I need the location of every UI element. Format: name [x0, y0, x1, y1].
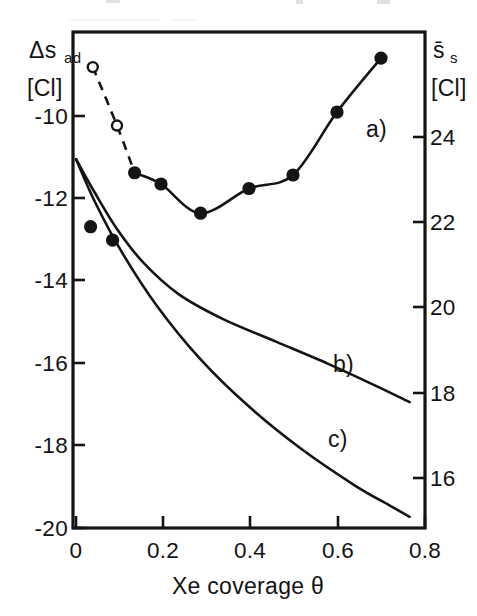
data-point-filled: [286, 168, 299, 181]
right-axis-title: s̄ s: [433, 37, 458, 66]
right-tick-label-2: 20: [430, 295, 456, 320]
left-tick-label-3: -16: [35, 351, 68, 376]
x-tick-label-3: 0.6: [322, 538, 354, 563]
data-point-filled: [330, 105, 343, 118]
right-axis-title-main: s̄: [433, 37, 445, 63]
data-point-filled: [242, 182, 255, 195]
scan-artifacts: [70, 0, 390, 21]
x-axis-title: Xe coverage θ: [172, 573, 324, 599]
bottom-axis-ticks: [76, 516, 425, 528]
data-point-filled: [154, 177, 167, 190]
series-a-dashed-extrapolation: [88, 62, 135, 173]
right-tick-label-1: 22: [430, 210, 456, 235]
series-a-: [128, 51, 388, 219]
series-b-: [76, 159, 410, 402]
data-point-open: [112, 121, 122, 131]
x-tick-label-1: 0.2: [147, 538, 179, 563]
right-tick-label-3: 18: [430, 381, 456, 406]
data-point-filled: [84, 220, 97, 233]
chart-svg: Δs ad [Cl] -10 -12 -14 -16 -18 -20 s̄ s …: [0, 0, 477, 616]
right-tick-label-4: 16: [430, 466, 456, 491]
left-tick-label-0: -10: [35, 104, 68, 129]
series-c-: [76, 159, 410, 517]
left-axis-unit: [Cl]: [27, 75, 63, 101]
left-tick-label-4: -18: [35, 433, 68, 458]
curve-path: [76, 159, 410, 402]
data-point-filled: [194, 207, 207, 220]
curve-path: [93, 67, 135, 173]
x-tick-label-0: 0: [70, 538, 83, 563]
left-axis-title-sub: ad: [64, 49, 81, 66]
right-axis-unit: [Cl]: [431, 75, 467, 101]
x-tick-label-4: 0.8: [409, 538, 441, 563]
curve-label-c: c): [328, 426, 348, 452]
figure-container: Δs ad [Cl] -10 -12 -14 -16 -18 -20 s̄ s …: [0, 0, 477, 616]
curve-path: [76, 159, 410, 517]
left-tick-label-2: -14: [35, 268, 68, 293]
left-tick-label-1: -12: [35, 186, 68, 211]
curve-label-a: a): [366, 116, 387, 142]
curve-path: [135, 58, 381, 213]
data-point-filled: [374, 51, 387, 64]
right-tick-label-0: 24: [430, 125, 456, 150]
left-axis-title-main: Δs: [29, 37, 56, 63]
right-axis-ticks: [413, 137, 425, 478]
x-tick-label-2: 0.4: [234, 538, 266, 563]
plot-frame: [73, 32, 425, 528]
curve-label-b: b): [333, 351, 354, 377]
right-axis-title-sub: s: [450, 49, 458, 66]
plot-data-layer: [76, 51, 410, 516]
data-point-open: [88, 62, 98, 72]
left-tick-label-5: -20: [35, 516, 68, 541]
